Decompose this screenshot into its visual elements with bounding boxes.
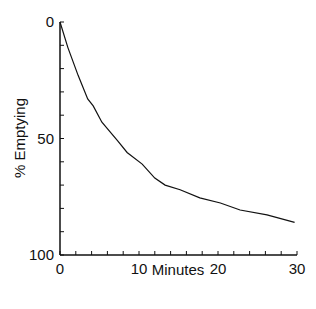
y-tick-label: 50 [37,130,54,147]
x-tick-label: 20 [210,260,227,277]
axes [60,22,297,255]
y-axis-label: % Emptying [11,98,28,178]
ticks [60,22,297,255]
x-tick-label: 0 [56,260,64,277]
y-tick-label: 100 [29,246,54,263]
series-line-emptying [60,22,295,222]
tick-labels: 0501000102030 [29,13,305,277]
x-axis-label: Minutes [152,261,205,278]
x-tick-label: 30 [289,260,306,277]
x-tick-label: 10 [131,260,148,277]
y-tick-label: 0 [46,13,54,30]
chart: 0501000102030 Minutes % Emptying [0,0,316,309]
